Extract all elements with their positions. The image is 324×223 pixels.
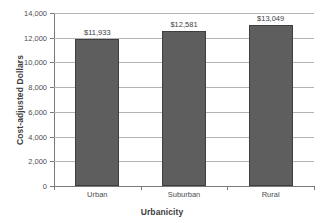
x-axis-tick-label: Urban: [87, 190, 107, 199]
y-axis-tick-label: 12,000: [24, 33, 47, 42]
y-axis-tick-label: 10,000: [24, 58, 47, 67]
bar: $12,581: [162, 31, 206, 186]
x-axis-tick-mark: [54, 186, 55, 190]
bar-chart: Cost-adjusted Dollars 02,0004,0006,0008,…: [0, 0, 324, 223]
y-axis-tick-mark: [50, 13, 54, 14]
bar-value-label: $11,933: [84, 28, 111, 37]
bar: $11,933: [75, 39, 119, 186]
gridline: [54, 186, 314, 187]
y-axis-tick-mark: [50, 137, 54, 138]
bar: $13,049: [249, 25, 293, 186]
y-axis-tick-mark: [50, 112, 54, 113]
y-axis-tick-label: 6,000: [28, 107, 47, 116]
x-axis-tick-mark: [227, 186, 228, 190]
y-axis-tick-label: 14,000: [24, 9, 47, 18]
y-axis-tick-label: 4,000: [28, 132, 47, 141]
bar-value-label: $13,049: [257, 14, 284, 23]
y-axis-tick-label: 2,000: [28, 157, 47, 166]
y-axis-tick-mark: [50, 87, 54, 88]
y-axis-tick-label: 0: [43, 182, 47, 191]
x-axis-tick-mark: [314, 186, 315, 190]
y-axis-title: Cost-adjusted Dollars: [15, 20, 25, 180]
y-axis-tick-label: 8,000: [28, 83, 47, 92]
y-axis-tick-mark: [50, 62, 54, 63]
y-axis-tick-mark: [50, 38, 54, 39]
y-axis-tick-mark: [50, 161, 54, 162]
x-axis-title: Urbanicity: [0, 207, 324, 217]
x-axis-tick-label: Suburban: [168, 190, 201, 199]
plot-area: 02,0004,0006,0008,00010,00012,00014,000 …: [54, 13, 314, 186]
x-axis-tick-mark: [141, 186, 142, 190]
x-axis-tick-label: Rural: [262, 190, 280, 199]
bar-value-label: $12,581: [170, 20, 197, 29]
y-axis-line: [54, 13, 55, 186]
